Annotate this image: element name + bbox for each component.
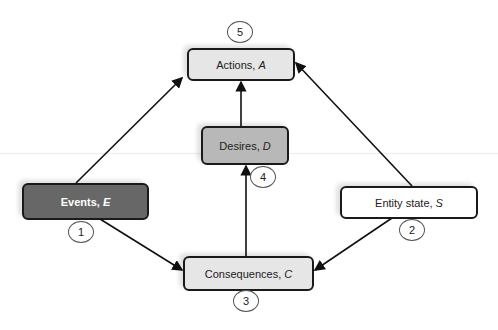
- node-events: Events, E: [22, 183, 149, 220]
- edge-entity-to-consequences: [315, 218, 392, 270]
- node-desires-label: Desires,: [219, 140, 259, 152]
- node-events-symbol: E: [103, 196, 110, 208]
- node-entity-state: Entity state, S: [340, 186, 478, 219]
- node-desires-symbol: D: [263, 140, 271, 152]
- node-desires: Desires, D: [201, 126, 289, 165]
- badge-actions: 5: [227, 21, 253, 43]
- node-consequences-label: Consequences,: [205, 268, 281, 280]
- node-consequences-symbol: C: [284, 268, 292, 280]
- node-actions: Actions, A: [187, 48, 295, 81]
- edge-events-to-consequences: [100, 219, 182, 270]
- edge-entity-to-actions: [296, 63, 412, 186]
- node-entity-state-label: Entity state,: [375, 197, 432, 209]
- badge-desires: 4: [250, 166, 276, 188]
- badge-events: 1: [68, 221, 94, 243]
- node-actions-label: Actions,: [216, 59, 255, 71]
- edge-events-to-actions: [76, 78, 182, 183]
- node-events-label: Events,: [61, 196, 100, 208]
- badge-entity-state: 2: [399, 219, 425, 241]
- node-consequences: Consequences, C: [183, 256, 314, 291]
- badge-consequences: 3: [233, 290, 259, 312]
- node-actions-symbol: A: [258, 59, 265, 71]
- node-entity-state-symbol: S: [436, 197, 443, 209]
